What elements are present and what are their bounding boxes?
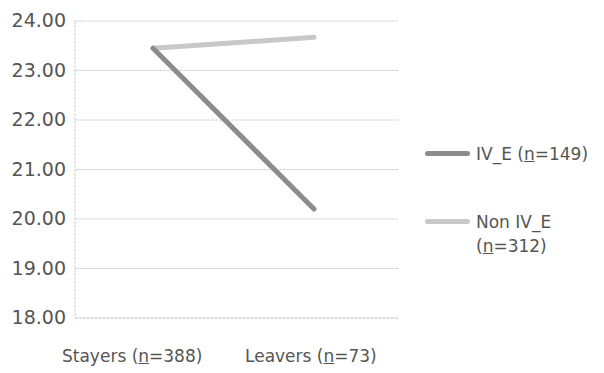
legend-swatch-icon xyxy=(425,219,470,224)
legend-item: Non IV_E (n=312) xyxy=(425,210,566,258)
y-tick-label: 18.00 xyxy=(4,307,66,327)
series-iv-e-line xyxy=(153,48,314,209)
legend-label: Non IV_E (n=312) xyxy=(476,210,566,258)
y-tick-label: 24.00 xyxy=(4,10,66,30)
legend-item: IV_E (n=149) xyxy=(425,142,604,166)
data-series xyxy=(153,37,314,209)
x-tick-label: Stayers (n=388) xyxy=(62,346,202,366)
legend-label: IV_E (n=149) xyxy=(476,142,604,166)
x-tick-label: Leavers (n=73) xyxy=(245,346,377,366)
y-tick-label: 21.00 xyxy=(4,159,66,179)
y-tick-label: 22.00 xyxy=(4,109,66,129)
chart-plot-area xyxy=(0,0,604,373)
y-tick-label: 23.00 xyxy=(4,60,66,80)
y-tick-label: 19.00 xyxy=(4,258,66,278)
gridlines xyxy=(75,21,398,318)
legend-swatch-icon xyxy=(425,151,470,156)
y-tick-label: 20.00 xyxy=(4,208,66,228)
series-non-iv-e-line xyxy=(153,37,314,48)
